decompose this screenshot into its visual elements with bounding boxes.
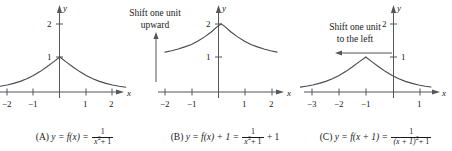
annotation-b-line2: upward: [112, 20, 198, 32]
x-tick-label-b-1: −1: [187, 99, 197, 109]
x-axis-label-a: x: [126, 88, 131, 98]
y-tick-label-c-0: 1: [401, 52, 406, 62]
caption-a-tag: (A): [36, 133, 49, 143]
caption-b-numerator: 1: [242, 128, 263, 136]
caption-b-lhs: y = f(x) + 1 =: [186, 133, 239, 143]
caption-a: (A) y = f(x) = 1 x2+ 1: [0, 129, 150, 147]
caption-b-denominator: x2+ 1: [242, 137, 263, 147]
caption-c-den-base: (x + 1): [393, 137, 415, 146]
caption-b-tag: (B): [171, 133, 184, 143]
caption-a-numerator: 1: [92, 128, 113, 136]
caption-a-fraction: 1 x2+ 1: [92, 128, 113, 146]
annotation-c-line2: to the left: [312, 34, 398, 46]
x-tick-label-c-0: −3: [307, 99, 317, 109]
y-tick-label-b-1: 2: [206, 19, 211, 29]
curve-a: [0, 57, 126, 87]
x-tick-label-b-0: −2: [160, 99, 170, 109]
caption-a-denominator: x2+ 1: [92, 137, 113, 147]
caption-c-lhs: y = f(x + 1) =: [335, 133, 388, 143]
caption-c-denominator: (x + 1)2+ 1: [391, 137, 431, 147]
caption-b-den-tail: + 1: [251, 137, 262, 146]
caption-b-trailing: + 1: [267, 133, 279, 143]
x-tick-label-c-3: 1: [417, 99, 422, 109]
x-tick-label-c-2: −1: [361, 99, 371, 109]
x-tick-label-b-2: 1: [242, 99, 247, 109]
annotation-c-line1: Shift one unit: [312, 22, 398, 34]
curve-c: [300, 57, 431, 87]
annotation-b-line1: Shift one unit: [112, 8, 198, 20]
annotation-shift-upward: Shift one unit upward: [112, 8, 198, 31]
y-axis-label-b: y: [221, 3, 226, 13]
caption-c-tag: (C): [320, 133, 333, 143]
y-tick-label-b-0: 1: [206, 52, 211, 62]
x-tick-label-b-3: 2: [269, 99, 274, 109]
arrow-up-icon: [148, 32, 164, 82]
caption-c: (C) y = f(x + 1) = 1 (x + 1)2+ 1: [300, 129, 452, 147]
caption-c-fraction: 1 (x + 1)2+ 1: [391, 128, 431, 146]
caption-c-den-tail: + 1: [419, 137, 430, 146]
x-tick-label-c-1: −2: [334, 99, 344, 109]
caption-b: (B) y = f(x) + 1 = 1 x2+ 1 + 1: [150, 129, 300, 147]
y-axis-b: [215, 5, 222, 98]
y-axis-label-a: y: [62, 3, 67, 13]
transformations-figure: x y −2 −1 1 2 1 2 (A) y = f(x) = 1 x2+ 1: [0, 0, 452, 151]
x-tick-label-a-1: −1: [28, 99, 38, 109]
x-axis-a: [0, 89, 124, 96]
caption-a-den-tail: + 1: [101, 137, 112, 146]
caption-c-numerator: 1: [391, 128, 431, 136]
x-tick-label-a-2: 1: [83, 99, 88, 109]
caption-b-fraction: 1 x2+ 1: [242, 128, 263, 146]
x-tick-label-a-0: −2: [2, 99, 12, 109]
caption-a-lhs: y = f(x) =: [51, 133, 88, 143]
x-axis-label-c: x: [441, 88, 446, 98]
y-tick-label-a-0: 1: [47, 52, 52, 62]
x-axis-label-b: x: [286, 88, 291, 98]
x-axis-c: [304, 89, 440, 96]
x-axis-b: [158, 89, 284, 96]
y-axis-label-c: y: [396, 3, 401, 13]
y-tick-label-a-1: 2: [47, 19, 52, 29]
y-axis-a: [56, 5, 63, 98]
x-tick-label-a-3: 2: [109, 99, 114, 109]
arrow-left-icon: [334, 46, 394, 60]
annotation-shift-left: Shift one unit to the left: [312, 22, 398, 45]
